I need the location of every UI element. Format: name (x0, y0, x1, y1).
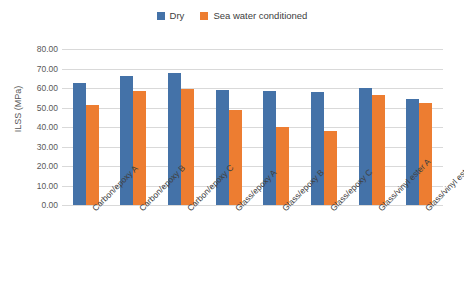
y-axis-tick-label: 70.00 (6, 65, 58, 74)
legend-label-sea-water-conditioned: Sea water conditioned (213, 11, 307, 21)
x-axis-tick-label: Glass/vinyl ester B (423, 206, 430, 213)
y-axis-tick-label: 30.00 (6, 143, 58, 152)
y-axis-tick-label: 0.00 (6, 201, 58, 210)
bar-sea-water-conditioned[interactable] (229, 110, 242, 205)
x-axis-tick-label: Carbon/epoxy C (185, 206, 192, 213)
bar-sea-water-conditioned[interactable] (276, 127, 289, 205)
y-axis-tick-label: 60.00 (6, 84, 58, 93)
bar-sea-water-conditioned[interactable] (181, 89, 194, 205)
legend-swatch-dry (157, 12, 165, 20)
bar-dry[interactable] (216, 90, 229, 205)
bar-sea-water-conditioned[interactable] (324, 131, 337, 205)
x-axis-tick-label: Glass/vinyl ester A (376, 206, 383, 213)
bar-sea-water-conditioned[interactable] (372, 95, 385, 205)
x-axis-tick-label: Glass/epoxy A (233, 206, 240, 213)
legend-entry-sea-water-conditioned[interactable]: Sea water conditioned (200, 11, 307, 21)
x-axis-tick-label: Glass/epoxy B (280, 206, 287, 213)
y-axis-tick-labels: 80.0070.0060.0050.0040.0030.0020.0010.00… (0, 0, 58, 285)
bar-sea-water-conditioned[interactable] (419, 103, 432, 205)
bar-sea-water-conditioned[interactable] (133, 91, 146, 205)
bar-group (62, 49, 110, 205)
x-axis-tick-label: Glass/epoxy C (328, 206, 335, 213)
bar-dry[interactable] (406, 99, 419, 205)
x-axis-tick-label: Carbon/epoxy A (90, 206, 97, 213)
y-axis-tick-label: 50.00 (6, 104, 58, 113)
x-axis-tick-labels: Carbon/epoxy ACarbon/epoxy BCarbon/epoxy… (62, 206, 443, 285)
legend-entry-dry[interactable]: Dry (157, 11, 185, 21)
legend-label-dry: Dry (170, 11, 185, 21)
bar-dry[interactable] (311, 92, 324, 205)
y-axis-tick-label: 20.00 (6, 162, 58, 171)
bar-sea-water-conditioned[interactable] (86, 105, 99, 205)
chart-legend: Dry Sea water conditioned (0, 9, 464, 23)
bar-dry[interactable] (73, 83, 86, 205)
x-axis-tick-label: Carbon/epoxy B (137, 206, 144, 213)
y-axis-tick-label: 80.00 (6, 45, 58, 54)
y-axis-tick-label: 40.00 (6, 123, 58, 132)
legend-swatch-sea-water-conditioned (200, 12, 208, 20)
bar-chart: Dry Sea water conditioned ILSS (MPa) 80.… (0, 0, 464, 285)
y-axis-tick-label: 10.00 (6, 182, 58, 191)
